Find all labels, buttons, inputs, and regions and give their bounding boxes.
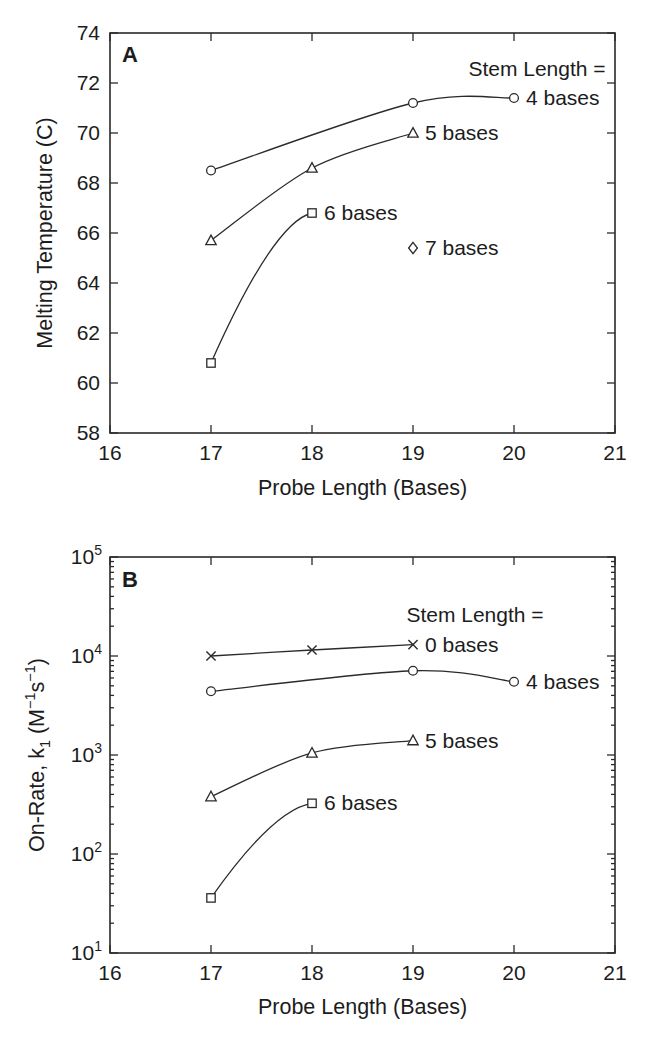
series-7-bases: 7 bases <box>409 236 499 259</box>
series-label: 5 bases <box>425 729 499 752</box>
series-4-bases: 4 bases <box>207 666 600 695</box>
x-tick-label: 20 <box>502 961 525 984</box>
triangle-marker-icon <box>206 235 216 245</box>
circle-marker-icon <box>207 687 216 696</box>
y-tick-label: 68 <box>77 171 100 194</box>
x-axis-label: Probe Length (Bases) <box>258 995 467 1019</box>
panel-letter: B <box>122 567 138 592</box>
square-marker-icon <box>207 894 215 902</box>
triangle-marker-icon <box>408 735 418 745</box>
triangle-marker-icon <box>307 163 317 173</box>
x-tick-label: 18 <box>300 961 323 984</box>
y-tick-label: 72 <box>77 71 100 94</box>
x-tick-label: 19 <box>401 961 424 984</box>
circle-marker-icon <box>510 94 519 103</box>
y-tick-label: 102 <box>71 839 102 865</box>
x-tick-label: 18 <box>300 441 323 464</box>
series-0-bases: 0 bases <box>206 633 498 661</box>
circle-marker-icon <box>510 677 519 686</box>
series-label: 7 bases <box>425 236 499 259</box>
y-tick-label: 64 <box>77 271 101 294</box>
series-5-bases: 5 bases <box>206 121 499 245</box>
series-line <box>211 133 413 241</box>
y-tick-label: 74 <box>77 21 101 44</box>
x-tick-label: 16 <box>98 441 121 464</box>
y-tick-label: 58 <box>77 421 100 444</box>
panel-letter: A <box>122 42 138 67</box>
y-axis-label: On-Rate, k1 (M−1s−1) <box>22 658 53 852</box>
circle-marker-icon <box>409 666 418 675</box>
series-line <box>211 671 514 692</box>
series-label: 6 bases <box>324 201 398 224</box>
y-tick-label: 60 <box>77 371 100 394</box>
x-tick-label: 17 <box>199 441 222 464</box>
x-tick-label: 19 <box>401 441 424 464</box>
y-axis-label: Melting Temperature (C) <box>33 117 57 348</box>
circle-marker-icon <box>409 99 418 108</box>
x-tick-label: 21 <box>603 961 626 984</box>
figure: 161718192021586062646668707274Probe Leng… <box>0 0 669 1047</box>
series-6-bases: 6 bases <box>207 791 398 902</box>
series-line <box>211 803 312 898</box>
series-5-bases: 5 bases <box>206 729 499 801</box>
diamond-marker-icon <box>409 242 418 253</box>
x-tick-label: 17 <box>199 961 222 984</box>
y-tick-label: 104 <box>71 641 102 667</box>
x-tick-label: 20 <box>502 441 525 464</box>
series-label: 0 bases <box>425 633 499 656</box>
y-tick-label: 70 <box>77 121 100 144</box>
x-tick-label: 21 <box>603 441 626 464</box>
panel-a-chart: 161718192021586062646668707274Probe Leng… <box>0 0 669 520</box>
series-label: 4 bases <box>526 670 600 693</box>
x-tick-label: 16 <box>98 961 121 984</box>
series-label: 5 bases <box>425 121 499 144</box>
circle-marker-icon <box>207 166 216 175</box>
series-label: 4 bases <box>526 86 600 109</box>
legend-title: Stem Length = <box>406 603 543 626</box>
x-axis-label: Probe Length (Bases) <box>258 476 467 500</box>
series-4-bases: 4 bases <box>207 86 600 175</box>
series-line <box>211 213 312 363</box>
series-label: 6 bases <box>324 791 398 814</box>
series-6-bases: 6 bases <box>207 201 398 367</box>
square-marker-icon <box>308 799 316 807</box>
square-marker-icon <box>207 359 215 367</box>
y-tick-label: 105 <box>71 542 102 568</box>
triangle-marker-icon <box>408 128 418 138</box>
panel-b-chart: 161718192021101102103104105Probe Length … <box>0 520 669 1047</box>
y-tick-label: 103 <box>71 740 102 766</box>
legend-title: Stem Length = <box>468 57 605 80</box>
y-tick-label: 66 <box>77 221 100 244</box>
square-marker-icon <box>308 209 316 217</box>
y-tick-label: 62 <box>77 321 100 344</box>
triangle-marker-icon <box>206 791 216 801</box>
